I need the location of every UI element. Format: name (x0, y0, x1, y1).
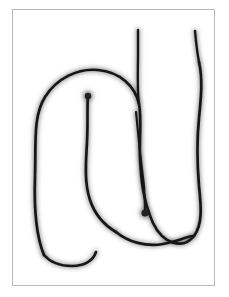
outer-contour-halo (35, 62, 202, 255)
inner-hook (86, 95, 116, 232)
ink-halo-group (35, 30, 202, 266)
left-vertical-tail (138, 30, 139, 104)
drawing-layer (0, 0, 229, 297)
outer-contour (35, 62, 202, 255)
sketch-canvas (0, 0, 229, 297)
ink-group (35, 30, 202, 266)
inner-stroke-end-blob (141, 209, 148, 216)
bottom-left-foot-halo (44, 252, 96, 266)
inner-hook-halo (86, 95, 116, 232)
inner-hook-tip-blob (85, 93, 91, 99)
